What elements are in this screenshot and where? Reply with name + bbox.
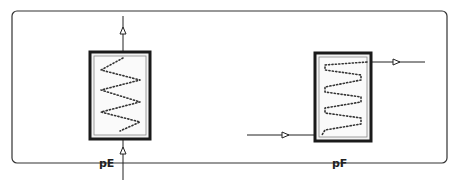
pF-label: pF xyxy=(332,157,347,170)
component-pF xyxy=(247,53,425,141)
component-pE xyxy=(90,16,150,180)
pF-box-inner xyxy=(319,57,367,137)
pF-outlet-arrow-icon xyxy=(393,59,400,65)
diagram-frame xyxy=(12,11,447,163)
pF-inlet-arrow-icon xyxy=(282,132,289,138)
pE-outlet-arrow-icon xyxy=(120,27,126,34)
diagram-canvas xyxy=(0,0,456,186)
pE-label: pE xyxy=(99,157,114,170)
pE-inlet-arrow-icon xyxy=(120,147,126,154)
